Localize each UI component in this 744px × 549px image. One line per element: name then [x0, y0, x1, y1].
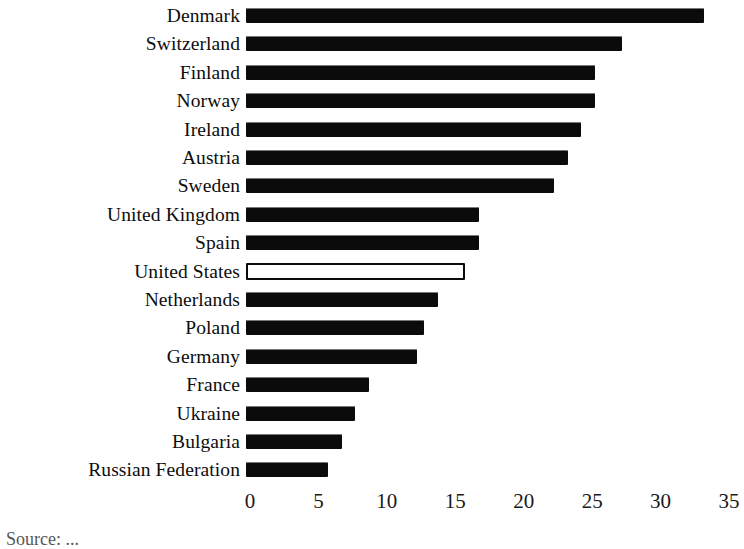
category-label: Germany [0, 343, 240, 371]
bar-row: Bulgaria [0, 428, 735, 456]
bar-track [246, 172, 735, 200]
bar-row: United States [0, 258, 735, 286]
x-tick-label: 35 [699, 486, 744, 516]
category-label: Russian Federation [0, 456, 240, 484]
bar [246, 94, 595, 108]
x-axis: 05101520253035 [0, 486, 735, 520]
bar [246, 236, 479, 250]
bar-highlighted [246, 263, 465, 280]
category-label: Austria [0, 144, 240, 172]
bar-row: Denmark [0, 2, 735, 30]
category-label: Bulgaria [0, 428, 240, 456]
bar-row: Russian Federation [0, 456, 735, 484]
bar-track [246, 286, 735, 314]
bar-row: United Kingdom [0, 201, 735, 229]
bar-row: Sweden [0, 172, 735, 200]
category-label: Ukraine [0, 400, 240, 428]
category-label: Denmark [0, 2, 240, 30]
category-label: Netherlands [0, 286, 240, 314]
plot-area: DenmarkSwitzerlandFinlandNorwayIrelandAu… [0, 0, 735, 486]
bar-track [246, 371, 735, 399]
x-tick-label: 30 [631, 486, 691, 516]
x-tick-label: 25 [562, 486, 622, 516]
bar [246, 463, 328, 477]
bar-row: Switzerland [0, 30, 735, 58]
bar [246, 9, 704, 23]
chart-caption: Source: ... [6, 528, 706, 549]
bar-row: France [0, 371, 735, 399]
bar [246, 407, 355, 421]
bar [246, 37, 622, 51]
bar-track [246, 456, 735, 484]
bar-row: Norway [0, 87, 735, 115]
category-label: Finland [0, 59, 240, 87]
category-label: France [0, 371, 240, 399]
bar-row: Ukraine [0, 400, 735, 428]
bar-track [246, 229, 735, 257]
bar-row: Spain [0, 229, 735, 257]
bar-row: Ireland [0, 116, 735, 144]
bar [246, 435, 342, 449]
category-label: Poland [0, 314, 240, 342]
bar [246, 151, 568, 165]
bar-row: Germany [0, 343, 735, 371]
bar [246, 179, 554, 193]
bar-track [246, 2, 735, 30]
bar [246, 321, 424, 335]
bar-track [246, 87, 735, 115]
bar-track [246, 116, 735, 144]
bar-track [246, 144, 735, 172]
category-label: Switzerland [0, 30, 240, 58]
category-label: Spain [0, 229, 240, 257]
category-label: United States [0, 258, 240, 286]
bar-row: Netherlands [0, 286, 735, 314]
category-label: Sweden [0, 172, 240, 200]
x-tick-label: 15 [425, 486, 485, 516]
bar [246, 293, 438, 307]
bar-row: Poland [0, 314, 735, 342]
bar-track [246, 314, 735, 342]
category-label: United Kingdom [0, 201, 240, 229]
x-tick-label: 10 [357, 486, 417, 516]
bar-row: Austria [0, 144, 735, 172]
bar [246, 350, 417, 364]
bar-track [246, 59, 735, 87]
bar [246, 208, 479, 222]
bar-track [246, 201, 735, 229]
bar [246, 123, 581, 137]
x-tick-label: 20 [494, 486, 554, 516]
bar [246, 66, 595, 80]
bar-track [246, 30, 735, 58]
bar [246, 378, 369, 392]
bar-row: Finland [0, 59, 735, 87]
category-label: Norway [0, 87, 240, 115]
bar-track [246, 343, 735, 371]
bar-track [246, 428, 735, 456]
bar-track [246, 258, 735, 286]
x-tick-label: 0 [220, 486, 280, 516]
x-tick-label: 5 [288, 486, 348, 516]
bar-track [246, 400, 735, 428]
category-label: Ireland [0, 116, 240, 144]
